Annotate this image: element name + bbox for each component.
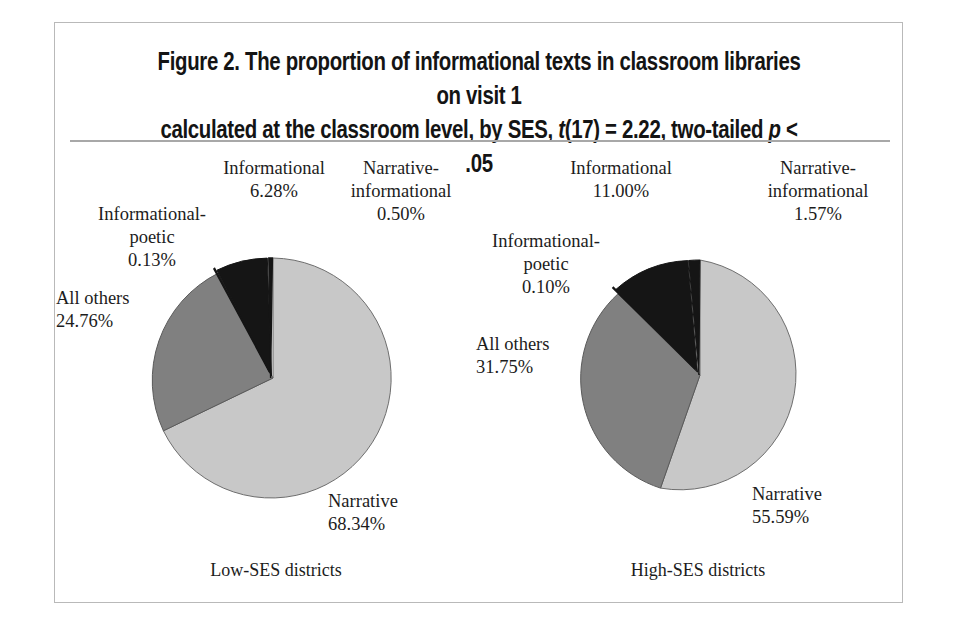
- caption-low-ses: Low-SES districts: [146, 560, 406, 581]
- caption-high-ses: High-SES districts: [568, 560, 828, 581]
- label-narrative-low: Narrative 68.34%: [328, 490, 398, 536]
- label-informational-poetic-low: Informational- poetic 0.13%: [72, 203, 232, 272]
- label-informational-poetic-low-name-a: Informational-: [98, 204, 206, 224]
- label-narrative-informational-low-pct: 0.50%: [316, 203, 486, 226]
- label-informational-poetic-high-name-b: poetic: [466, 253, 626, 276]
- label-informational-poetic-low-pct: 0.13%: [72, 249, 232, 272]
- label-informational-poetic-high: Informational- poetic 0.10%: [466, 230, 626, 299]
- figure-page: Figure 2. The proportion of informationa…: [0, 0, 956, 642]
- label-informational-low-name: Informational: [223, 158, 325, 178]
- label-all-others-high-pct: 31.75%: [476, 356, 549, 379]
- label-all-others-low: All others 24.76%: [56, 287, 129, 333]
- pie-panel-high-ses: Informational 11.00% Narrative- informat…: [484, 150, 904, 590]
- label-narrative-high-name: Narrative: [752, 484, 822, 504]
- label-narrative-informational-high: Narrative- informational 1.57%: [732, 157, 904, 226]
- label-all-others-low-pct: 24.76%: [56, 310, 129, 333]
- label-all-others-low-name: All others: [56, 288, 129, 308]
- label-informational-high-name: Informational: [570, 158, 672, 178]
- label-informational-poetic-high-pct: 0.10%: [466, 276, 626, 299]
- label-narrative-low-name: Narrative: [328, 491, 398, 511]
- label-informational-high-pct: 11.00%: [526, 180, 716, 203]
- figure-title-line-2-part-b: (17) = 2.22, two-tailed: [565, 115, 769, 143]
- label-informational-high: Informational 11.00%: [526, 157, 716, 203]
- label-all-others-high-name: All others: [476, 334, 549, 354]
- label-narrative-high-pct: 55.59%: [752, 506, 822, 529]
- label-informational-poetic-low-name-b: poetic: [72, 226, 232, 249]
- label-all-others-high: All others 31.75%: [476, 333, 549, 379]
- label-narrative-high: Narrative 55.59%: [752, 483, 822, 529]
- label-narrative-informational-high-name-a: Narrative-: [780, 158, 856, 178]
- title-divider-rule: [70, 140, 890, 142]
- label-narrative-informational-high-pct: 1.57%: [732, 203, 904, 226]
- label-narrative-informational-low: Narrative- informational 0.50%: [316, 157, 486, 226]
- label-informational-poetic-high-name-a: Informational-: [492, 231, 600, 251]
- figure-title-stat-p: p: [768, 115, 780, 143]
- label-narrative-informational-low-name-a: Narrative-: [363, 158, 439, 178]
- figure-title-line-2-part-a: calculated at the classroom level, by SE…: [160, 115, 558, 143]
- label-narrative-informational-low-name-b: informational: [316, 180, 486, 203]
- label-narrative-low-pct: 68.34%: [328, 513, 398, 536]
- label-narrative-informational-high-name-b: informational: [732, 180, 904, 203]
- pie-panel-low-ses: Informational 6.28% Narrative- informati…: [56, 150, 486, 590]
- figure-title-line-1: Figure 2. The proportion of informationa…: [152, 44, 806, 112]
